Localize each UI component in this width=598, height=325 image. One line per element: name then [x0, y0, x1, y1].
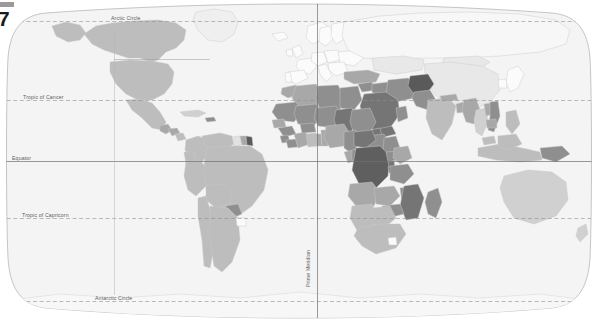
region-french-guiana [246, 136, 253, 146]
label-antarctic-circle: Antarctic Circle [95, 295, 132, 301]
world-map-figure: Arctic Circle Tropic of Cancer Equator T… [0, 0, 598, 325]
region-uruguay [236, 218, 246, 226]
region-burkina-faso [300, 123, 316, 133]
region-lesotho [388, 237, 397, 245]
label-arctic-circle: Arctic Circle [111, 15, 141, 21]
region-south-korea [498, 79, 507, 88]
label-tropic-of-capricorn: Tropic of Capricorn [22, 212, 69, 218]
label-tropic-of-cancer: Tropic of Cancer [23, 94, 64, 100]
label-prime-meridian: Prime Meridian [305, 250, 311, 287]
world-map-svg: Arctic Circle Tropic of Cancer Equator T… [0, 0, 598, 325]
region-turkey [344, 70, 380, 84]
region-togo [316, 134, 322, 146]
region-ireland [286, 49, 293, 56]
label-equator: Equator [12, 155, 31, 161]
page-root: 7 [0, 0, 598, 325]
region-cambodia [486, 119, 497, 128]
region-senegal [272, 119, 286, 128]
region-haiti [205, 117, 216, 122]
